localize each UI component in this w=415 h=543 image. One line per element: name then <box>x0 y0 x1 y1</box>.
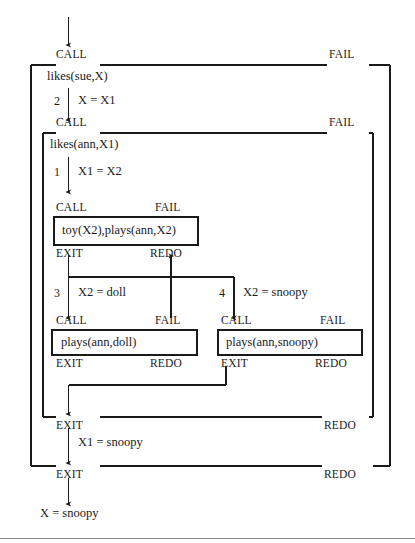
port-label-conjunction-redo: REDO <box>150 248 182 260</box>
port-label-middle-call: CALL <box>56 117 87 129</box>
port-label-middle-redo: REDO <box>324 420 356 432</box>
port-label-middle-exit: EXIT <box>56 420 83 432</box>
port-label-outer-call: CALL <box>56 49 87 61</box>
goal-text-plays-doll: plays(ann,doll) <box>61 336 136 349</box>
goal-text-middle: likes(ann,X1) <box>50 138 118 151</box>
goal-text-plays-snoopy: plays(ann,snoopy) <box>226 336 318 349</box>
port-label-outer-redo: REDO <box>324 469 356 481</box>
port-label-plays-snoopy-exit: EXIT <box>221 358 248 370</box>
goal-text-outer: likes(sue,X) <box>47 70 108 83</box>
port-label-outer-fail: FAIL <box>329 49 355 61</box>
port-label-plays-doll-redo: REDO <box>150 358 182 370</box>
port-label-outer-exit: EXIT <box>56 469 83 481</box>
final-result-text: X = snoopy <box>40 507 98 520</box>
binding-text-x2-eq-snoopy: X2 = snoopy <box>243 286 308 299</box>
port-label-plays-doll-fail: FAIL <box>155 315 181 327</box>
binding-text-x1-eq-snoopy: X1 = snoopy <box>78 436 143 449</box>
clause-number-3: 3 <box>54 287 60 299</box>
binding-text-x1-eq-x2: X1 = X2 <box>78 165 122 178</box>
port-label-plays-snoopy-call: CALL <box>221 315 252 327</box>
binding-text-x2-eq-doll: X2 = doll <box>78 286 126 299</box>
clause-number-2: 2 <box>54 95 60 107</box>
goal-text-conjunction: toy(X2),plays(ann,X2) <box>62 224 176 237</box>
clause-number-4: 4 <box>219 287 225 299</box>
port-label-plays-doll-exit: EXIT <box>56 358 83 370</box>
port-label-conjunction-fail: FAIL <box>155 202 181 214</box>
port-label-middle-fail: FAIL <box>329 117 355 129</box>
page-divider-rule <box>0 538 415 539</box>
port-label-plays-doll-call: CALL <box>56 315 87 327</box>
clause-number-1: 1 <box>54 166 60 178</box>
port-label-conjunction-call: CALL <box>56 202 87 214</box>
port-label-conjunction-exit: EXIT <box>56 248 83 260</box>
diagram-canvas: CALL FAIL likes(sue,X) 2 X = X1 CALL FAI… <box>0 0 415 543</box>
port-label-plays-snoopy-fail: FAIL <box>320 315 346 327</box>
port-label-plays-snoopy-redo: REDO <box>315 358 347 370</box>
binding-text-x-eq-x1: X = X1 <box>78 94 116 107</box>
